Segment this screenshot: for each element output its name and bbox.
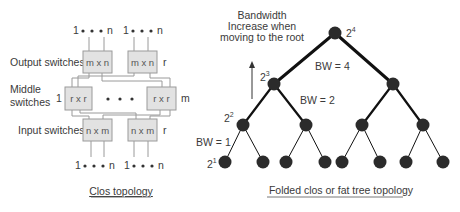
diagram-canvas: 1 n 1 n Output swi bbox=[0, 0, 460, 212]
svg-text:Output switches: Output switches bbox=[10, 56, 85, 68]
bw-label-4: BW = 4 bbox=[315, 60, 350, 72]
leaf-node bbox=[257, 156, 270, 169]
svg-text:m x n: m x n bbox=[131, 57, 154, 68]
svg-text:1: 1 bbox=[124, 159, 130, 171]
leaf-node bbox=[336, 156, 349, 169]
svg-text:n x m: n x m bbox=[131, 125, 154, 136]
svg-text:m x n: m x n bbox=[86, 57, 109, 68]
tree-node bbox=[417, 119, 430, 132]
level-label-2-4: 24 bbox=[346, 26, 356, 39]
svg-text:r: r bbox=[163, 56, 167, 68]
output-switches: Output switches m x n m x n r bbox=[10, 51, 167, 73]
middle-switches: Middle switches 1 r x r r x r m bbox=[10, 83, 190, 110]
leaf-node bbox=[219, 156, 232, 169]
svg-text:n: n bbox=[157, 24, 163, 36]
input-ports-left: 1 n bbox=[75, 159, 115, 171]
fat-tree-caption: Folded clos or fat tree topology bbox=[269, 184, 414, 196]
tree-node bbox=[237, 119, 250, 132]
svg-text:n: n bbox=[109, 159, 115, 171]
input-switches: Input switches n x m n x m r bbox=[18, 119, 167, 141]
svg-text:n x m: n x m bbox=[86, 125, 109, 136]
root-node bbox=[329, 27, 342, 40]
bandwidth-annotation: Bandwidth Increase when moving to the ro… bbox=[220, 9, 304, 43]
level-label-2-2: 22 bbox=[224, 111, 234, 124]
clos-caption: Clos topology bbox=[89, 185, 153, 197]
svg-text:r: r bbox=[163, 124, 167, 136]
middle-input-wires bbox=[72, 110, 170, 119]
svg-text:r x r: r x r bbox=[153, 93, 169, 104]
tree-node bbox=[300, 119, 313, 132]
leaf-node bbox=[319, 156, 332, 169]
clos-topology: 1 n 1 n Output swi bbox=[10, 24, 190, 197]
output-port-wires bbox=[89, 37, 148, 51]
svg-text:Middle: Middle bbox=[10, 83, 41, 95]
output-middle-wires bbox=[72, 73, 170, 87]
leaf-node bbox=[280, 156, 293, 169]
svg-text:n: n bbox=[158, 159, 164, 171]
svg-text:m: m bbox=[181, 92, 190, 104]
level-label-2-1: 21 bbox=[207, 157, 217, 170]
leaf-node bbox=[400, 156, 413, 169]
input-ports-right: 1 n bbox=[124, 159, 164, 171]
svg-text:moving to the root: moving to the root bbox=[220, 31, 304, 43]
tree-node bbox=[356, 119, 369, 132]
tree-node bbox=[268, 78, 281, 91]
up-arrow-icon bbox=[249, 61, 255, 99]
input-port-wires bbox=[91, 141, 148, 157]
tree-node bbox=[387, 78, 400, 91]
output-ports-left: 1 n bbox=[73, 24, 113, 36]
svg-text:switches: switches bbox=[10, 96, 50, 108]
svg-text:r x r: r x r bbox=[70, 93, 86, 104]
output-ports-right: 1 n bbox=[123, 24, 163, 36]
fat-tree-topology: Bandwidth Increase when moving to the ro… bbox=[196, 9, 450, 197]
svg-text:1: 1 bbox=[75, 159, 81, 171]
bw-label-2: BW = 2 bbox=[300, 94, 335, 106]
svg-text:1: 1 bbox=[56, 92, 62, 104]
leaf-node bbox=[374, 156, 387, 169]
svg-text:n: n bbox=[107, 24, 113, 36]
svg-text:1: 1 bbox=[123, 24, 129, 36]
bw-label-1: BW = 1 bbox=[196, 136, 231, 148]
leaf-node bbox=[437, 156, 450, 169]
svg-text:Input switches: Input switches bbox=[18, 124, 85, 136]
svg-text:1: 1 bbox=[73, 24, 79, 36]
